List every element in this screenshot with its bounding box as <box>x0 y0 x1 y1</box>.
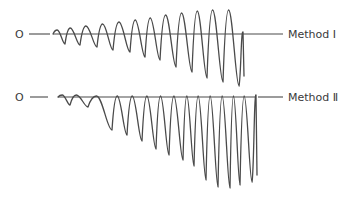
waveform-2 <box>58 95 257 188</box>
origin-label-1: O <box>15 28 24 41</box>
waveform-1 <box>53 10 244 86</box>
origin-label-2: O <box>15 91 24 104</box>
method-2-label: Method Ⅱ <box>288 91 338 104</box>
waveform-figure: O Method Ⅰ O Method Ⅱ <box>0 0 353 197</box>
trace-method-1: O Method Ⅰ <box>15 10 336 86</box>
trace-method-2: O Method Ⅱ <box>15 91 338 188</box>
method-1-label: Method Ⅰ <box>288 28 336 41</box>
